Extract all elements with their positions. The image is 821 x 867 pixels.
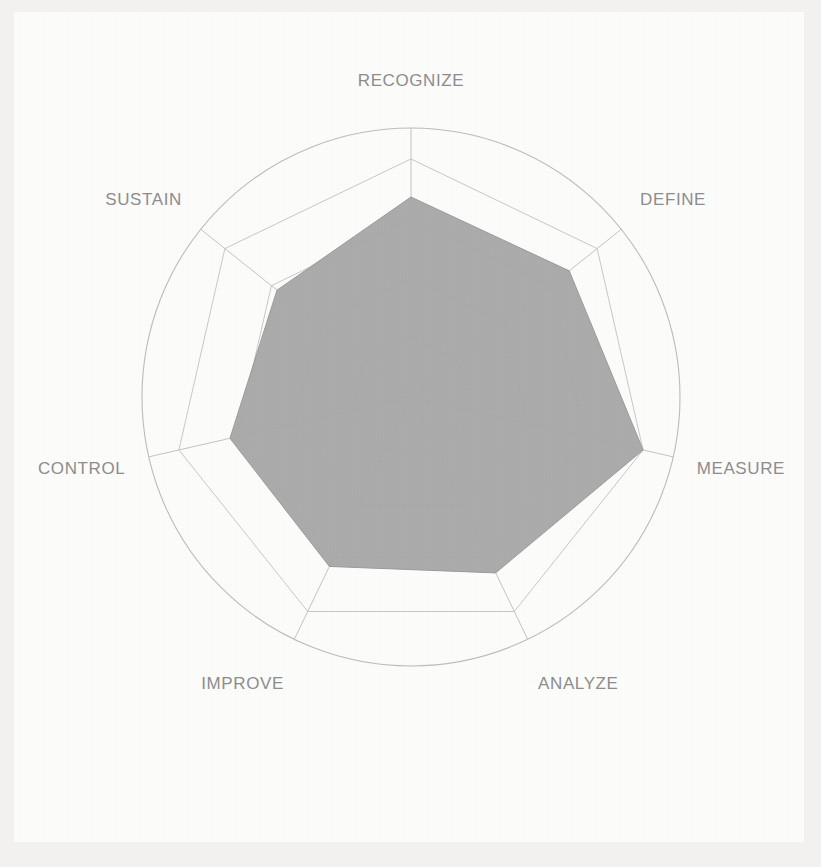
page-background: RECOGNIZEDEFINEMEASUREANALYZEIMPROVECONT… — [0, 0, 821, 867]
radar-chart-canvas: RECOGNIZEDEFINEMEASUREANALYZEIMPROVECONT… — [14, 12, 804, 842]
axis-label-improve: IMPROVE — [201, 674, 284, 693]
axis-label-sustain: SUSTAIN — [105, 190, 182, 209]
axis-label-recognize: RECOGNIZE — [358, 71, 464, 90]
axis-label-measure: MEASURE — [697, 459, 785, 478]
axis-label-define: DEFINE — [640, 190, 706, 209]
axis-label-analyze: ANALYZE — [538, 674, 618, 693]
radar-chart-svg: RECOGNIZEDEFINEMEASUREANALYZEIMPROVECONT… — [14, 12, 804, 842]
axis-label-control: CONTROL — [38, 459, 125, 478]
series-area-assessment — [230, 197, 643, 573]
